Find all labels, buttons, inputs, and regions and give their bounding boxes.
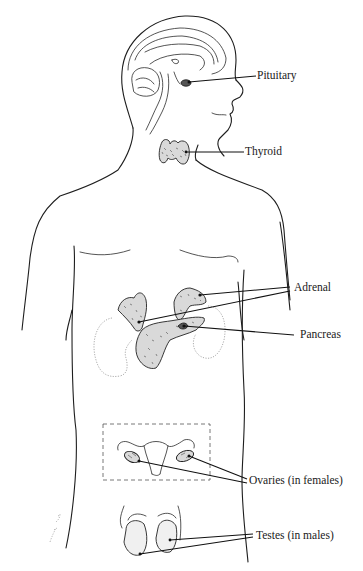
artist-signature [50, 514, 60, 542]
pancreas-leader-line [184, 326, 294, 335]
label-pancreas: Pancreas [300, 329, 341, 341]
endocrine-diagram: Pituitary Thyroid Adrenal Pancreas Ovari… [0, 0, 363, 571]
label-adrenal: Adrenal [294, 282, 331, 294]
head-outline [122, 16, 243, 160]
pancreas [136, 317, 204, 368]
testes-illustration [120, 506, 181, 555]
label-pituitary: Pituitary [257, 70, 297, 82]
adrenal-leader-lines [139, 287, 290, 322]
label-testes: Testes (in males) [256, 530, 334, 542]
pituitary-leader-line [189, 76, 256, 82]
ovaries-leader-lines [139, 456, 247, 483]
label-thyroid: Thyroid [245, 146, 282, 158]
ovaries-illustration [103, 424, 210, 480]
brain [128, 28, 226, 134]
thyroid-gland [159, 140, 189, 165]
pituitary-gland [181, 80, 191, 86]
label-ovaries: Ovaries (in females) [249, 475, 343, 487]
